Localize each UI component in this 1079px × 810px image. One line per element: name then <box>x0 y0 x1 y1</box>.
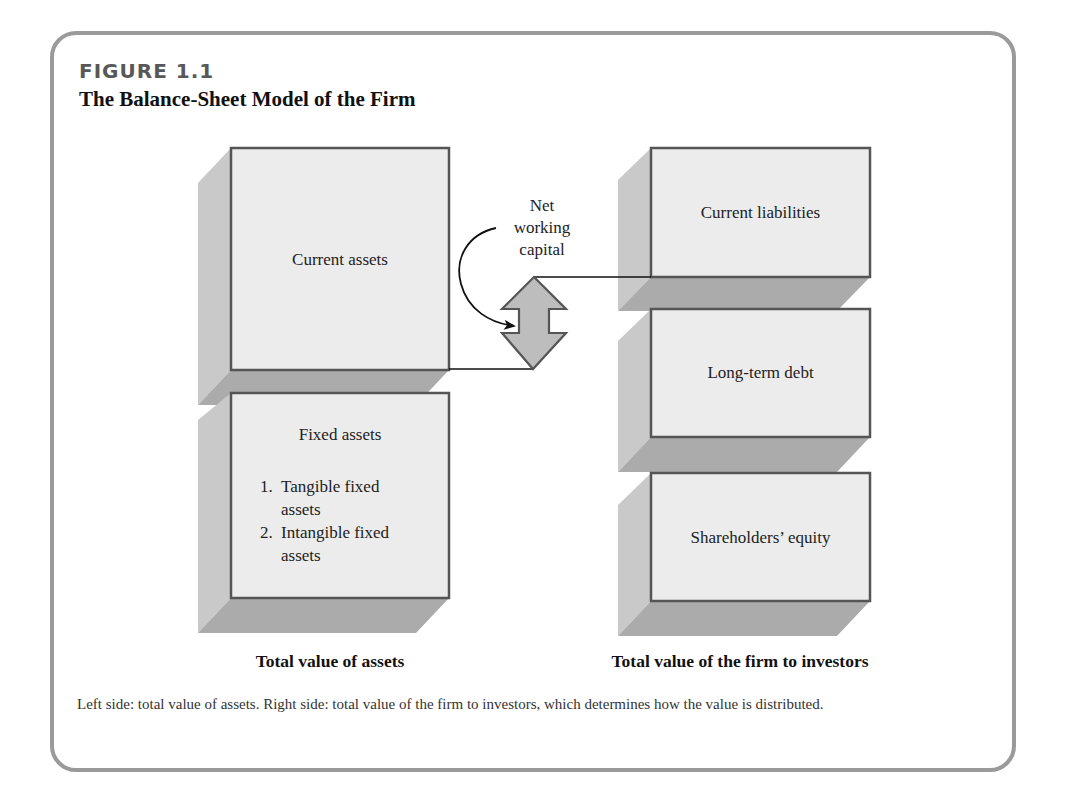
fixed-assets-list: 1. Tangible fixed assets 2. Intangible f… <box>260 475 389 567</box>
fixed-assets-label: Fixed assets <box>231 425 449 445</box>
balance-sheet-diagram <box>0 0 1079 810</box>
double-headed-arrow-icon <box>502 277 566 369</box>
current-assets-box-3d <box>198 148 449 405</box>
left-column-caption: Total value of assets <box>190 651 470 672</box>
current-liabilities-label: Current liabilities <box>651 203 870 223</box>
current-assets-label: Current assets <box>231 250 449 270</box>
current-liabilities-box-3d <box>618 148 870 311</box>
long-term-debt-box-3d <box>618 309 870 472</box>
right-column-caption: Total value of the firm to investors <box>560 651 920 672</box>
list-item: 2. Intangible fixed assets <box>260 521 389 567</box>
net-working-capital-label: Net working capital <box>502 195 582 261</box>
long-term-debt-label: Long-term debt <box>651 363 870 383</box>
shareholders-equity-label: Shareholders’ equity <box>651 528 870 548</box>
list-item: 1. Tangible fixed assets <box>260 475 389 521</box>
shareholders-equity-box-3d <box>618 473 870 636</box>
figure-caption: Left side: total value of assets. Right … <box>77 693 957 715</box>
